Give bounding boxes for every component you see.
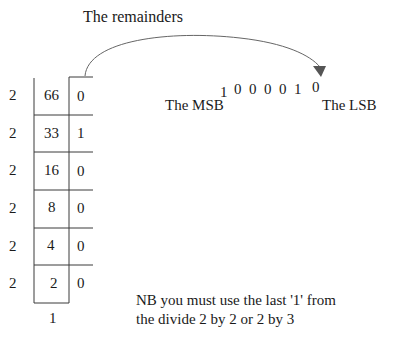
bit-6: 1 (294, 81, 302, 98)
remainder-3: 0 (77, 163, 85, 180)
quotient-3: 16 (44, 162, 59, 179)
divisor-1: 2 (9, 87, 17, 104)
quotient-1: 66 (44, 87, 59, 104)
quotient-2: 33 (44, 125, 59, 142)
quotient-5: 4 (47, 237, 55, 254)
divisor-4: 2 (9, 200, 17, 217)
bit-7: 0 (312, 79, 320, 96)
curved-arrow-icon (85, 35, 326, 77)
note-line-1: NB you must use the last '1' from (136, 292, 336, 309)
remainder-5: 0 (77, 238, 85, 255)
lsb-label: The LSB (322, 97, 377, 114)
quotient-4: 8 (48, 199, 56, 216)
remainder-1: 0 (77, 88, 85, 105)
divisor-5: 2 (9, 238, 17, 255)
divisor-6: 2 (9, 275, 17, 292)
bit-3: 0 (249, 81, 257, 98)
remainder-2: 1 (77, 125, 85, 142)
bit-5: 0 (279, 81, 287, 98)
note-line-2: the divide 2 by 2 or 2 by 3 (136, 311, 294, 328)
divisor-2: 2 (9, 125, 17, 142)
bit-2: 0 (234, 81, 242, 98)
remainder-4: 0 (77, 200, 85, 217)
bit-4: 0 (264, 81, 272, 98)
msb-label: The MSB (165, 97, 224, 114)
remainders-title: The remainders (83, 8, 183, 26)
divisor-3: 2 (9, 162, 17, 179)
remainder-6: 0 (77, 275, 85, 292)
final-quotient: 1 (49, 310, 57, 327)
quotient-6: 2 (50, 275, 58, 292)
